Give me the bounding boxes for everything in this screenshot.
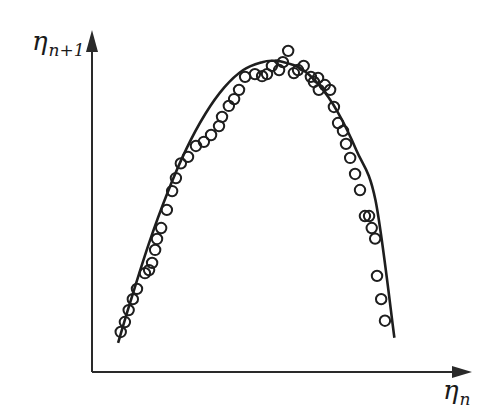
data-point <box>240 72 250 82</box>
axes <box>86 30 472 378</box>
data-point <box>217 112 227 122</box>
data-point <box>283 46 293 56</box>
chart-canvas <box>0 0 501 418</box>
data-point <box>370 233 380 243</box>
data-point <box>152 234 162 244</box>
fit-curve <box>118 61 394 343</box>
y-axis-label: ηn+1 <box>32 26 85 56</box>
data-point <box>183 152 193 162</box>
data-point <box>350 169 360 179</box>
scatter-points <box>116 46 391 338</box>
data-point <box>355 185 365 195</box>
data-point <box>376 294 386 304</box>
data-point <box>234 85 244 95</box>
y-axis-arrow-icon <box>86 30 98 52</box>
data-point <box>250 69 260 79</box>
data-point <box>372 271 382 281</box>
data-point <box>162 205 172 215</box>
data-point <box>150 245 160 255</box>
x-axis-label: ηn <box>443 375 471 405</box>
data-point <box>156 223 166 233</box>
data-point <box>341 139 351 149</box>
data-point <box>380 316 390 326</box>
fit-line <box>118 61 394 343</box>
data-point <box>367 223 377 233</box>
data-point <box>345 153 355 163</box>
data-point <box>206 130 216 140</box>
